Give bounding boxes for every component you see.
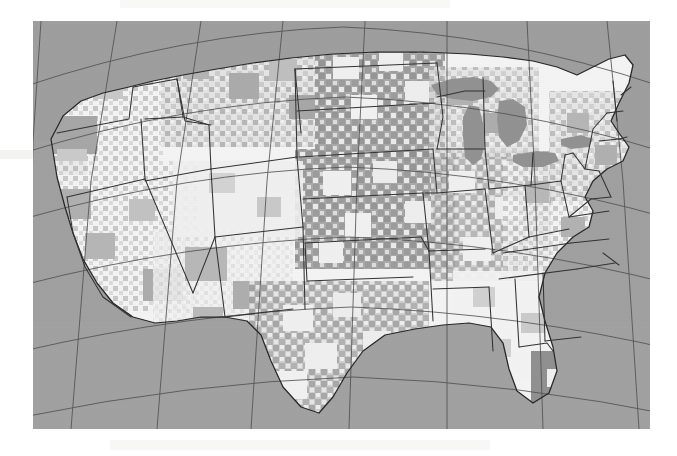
us-county-choropleth-map xyxy=(33,21,650,429)
scan-artifact-bottom xyxy=(110,440,490,450)
map-svg xyxy=(33,21,650,429)
page-canvas xyxy=(0,0,677,456)
scan-haze xyxy=(33,21,650,429)
scan-artifact-left xyxy=(0,150,33,159)
scan-artifact-top xyxy=(120,0,450,8)
